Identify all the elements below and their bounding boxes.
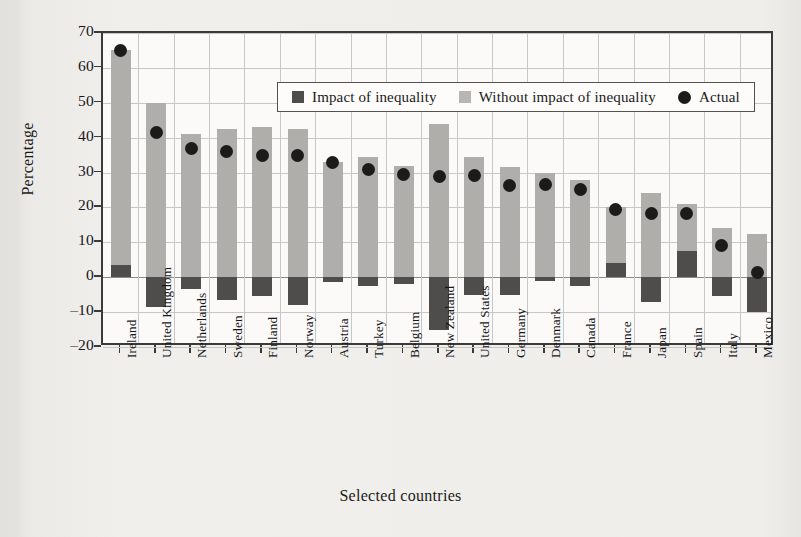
- actual-data-point: [645, 207, 658, 220]
- bar-without-impact-of-inequality: [181, 134, 201, 277]
- gridline-vertical: [492, 33, 493, 343]
- gridline-vertical: [386, 33, 387, 343]
- x-axis-tick-label: Turkey: [372, 342, 386, 358]
- bar-without-impact-of-inequality: [394, 166, 414, 278]
- bar-impact-of-inequality: [641, 277, 661, 301]
- bar-impact-of-inequality: [394, 277, 414, 284]
- x-axis-tick-label: United States: [478, 342, 492, 358]
- y-axis-tick-mark: [94, 136, 101, 138]
- bar-impact-of-inequality: [712, 277, 732, 296]
- y-axis-tick-mark: [94, 275, 101, 277]
- y-axis-tick-mark: [94, 66, 101, 68]
- gridline-horizontal: [103, 68, 771, 69]
- x-axis-tick-label: Germany: [514, 342, 528, 358]
- actual-data-point: [185, 142, 198, 155]
- chart-legend: Impact of inequality Without impact of i…: [277, 82, 755, 112]
- y-axis-tick-mark: [94, 101, 101, 103]
- legend-label: Actual: [699, 89, 740, 106]
- y-axis-tick-mark: [94, 310, 101, 312]
- x-axis-tick-label: Finland: [266, 342, 280, 358]
- legend-item-without-impact-of-inequality: Without impact of inequality: [459, 89, 656, 106]
- bar-impact-of-inequality: [181, 277, 201, 289]
- x-axis-tick-label: Spain: [691, 342, 705, 358]
- gridline-vertical: [280, 33, 281, 343]
- bar-impact-of-inequality: [747, 277, 767, 312]
- gridline-vertical: [351, 33, 352, 343]
- gridline-vertical: [209, 33, 210, 343]
- gridline-vertical: [244, 33, 245, 343]
- gridline-vertical: [138, 33, 139, 343]
- x-axis-title: Selected countries: [0, 487, 801, 505]
- y-axis-tick-label: 10: [34, 232, 94, 248]
- actual-data-point: [150, 126, 163, 139]
- y-axis-tick-label: –20: [34, 337, 94, 353]
- actual-data-point: [397, 168, 410, 181]
- bar-impact-of-inequality: [570, 277, 590, 286]
- y-axis-tick-label: 0: [34, 267, 94, 283]
- x-axis-tick-label: Ireland: [125, 342, 139, 358]
- gridline-vertical: [740, 33, 741, 343]
- bar-impact-of-inequality: [500, 277, 520, 294]
- bar-impact-of-inequality: [358, 277, 378, 286]
- bar-impact-of-inequality: [111, 265, 131, 277]
- y-axis-tick-label: 50: [34, 93, 94, 109]
- bar-without-impact-of-inequality: [429, 124, 449, 278]
- x-axis-tick-label: Italy: [726, 342, 740, 358]
- gridline-vertical: [598, 33, 599, 343]
- x-axis-tick-label: New Zealand: [443, 342, 457, 358]
- legend-item-actual: Actual: [678, 89, 740, 106]
- gridline-vertical: [421, 33, 422, 343]
- gridline-vertical: [527, 33, 528, 343]
- legend-item-impact-of-inequality: Impact of inequality: [292, 89, 437, 106]
- y-axis-tick-mark: [94, 205, 101, 207]
- actual-data-point: [256, 149, 269, 162]
- legend-label: Impact of inequality: [312, 89, 437, 106]
- legend-swatch-square-dark-icon: [292, 91, 304, 103]
- y-axis-title: Percentage: [19, 59, 37, 259]
- legend-label: Without impact of inequality: [479, 89, 656, 106]
- x-axis-tick-label: Austria: [337, 342, 351, 358]
- actual-data-point: [468, 169, 481, 182]
- y-axis-tick-label: –10: [34, 302, 94, 318]
- bar-impact-of-inequality: [323, 277, 343, 282]
- y-axis-tick-label: 60: [34, 58, 94, 74]
- actual-data-point: [574, 183, 587, 196]
- legend-swatch-square-light-icon: [459, 91, 471, 103]
- gridline-horizontal: [103, 33, 771, 34]
- gridline-vertical: [634, 33, 635, 343]
- bar-impact-of-inequality: [677, 251, 697, 277]
- bar-without-impact-of-inequality: [323, 162, 343, 277]
- actual-data-point: [751, 266, 764, 279]
- y-axis-tick-label: 20: [34, 197, 94, 213]
- x-axis-tick-label: Norway: [302, 342, 316, 358]
- gridline-vertical: [315, 33, 316, 343]
- x-axis-tick-label: Canada: [584, 342, 598, 358]
- bar-without-impact-of-inequality: [641, 193, 661, 277]
- bar-without-impact-of-inequality: [712, 228, 732, 277]
- y-axis-tick-mark: [94, 240, 101, 242]
- bar-impact-of-inequality: [606, 263, 626, 277]
- x-axis-tick-label: France: [620, 342, 634, 358]
- x-axis-tick-label: Belgium: [408, 342, 422, 358]
- y-axis-tick-mark: [94, 345, 101, 347]
- gridline-vertical: [704, 33, 705, 343]
- chart-figure: Percentage Selected countries 7060504030…: [0, 0, 801, 537]
- x-axis-tick-label: Mexico: [761, 342, 775, 358]
- actual-data-point: [539, 178, 552, 191]
- y-axis-tick-label: 30: [34, 163, 94, 179]
- actual-data-point: [362, 163, 375, 176]
- actual-data-point: [609, 203, 622, 216]
- bar-impact-of-inequality: [288, 277, 308, 305]
- bar-impact-of-inequality: [535, 277, 555, 280]
- x-axis-tick-label: Netherlands: [195, 342, 209, 358]
- actual-data-point: [680, 207, 693, 220]
- bar-without-impact-of-inequality: [111, 50, 131, 277]
- bar-impact-of-inequality: [252, 277, 272, 296]
- gridline-vertical: [669, 33, 670, 343]
- x-axis-tick-label: Denmark: [549, 342, 563, 358]
- x-axis-tick-label: United Kingdom: [160, 342, 174, 358]
- bar-impact-of-inequality: [217, 277, 237, 300]
- x-axis-tick-label: Sweden: [231, 342, 245, 358]
- actual-data-point: [433, 170, 446, 183]
- y-axis-tick-label: 70: [34, 23, 94, 39]
